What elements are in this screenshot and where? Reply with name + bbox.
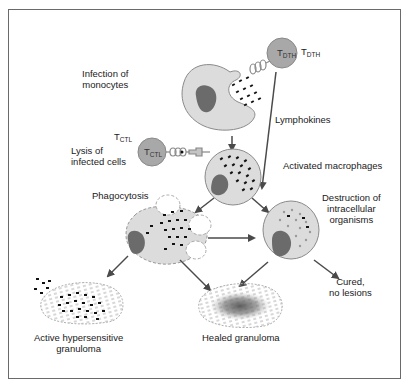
arrow-destruction-to-healed: [240, 262, 268, 286]
lymphokines-arrow: [262, 72, 276, 188]
label-phagocytosis: Phagocytosis: [92, 190, 149, 201]
arrow-to-activated: [252, 198, 268, 212]
tdth-inner-label: TDTH: [277, 47, 296, 59]
tctl-outer-label: TCTL: [114, 131, 132, 143]
label-line: Infection of: [82, 68, 128, 79]
label-activated-macrophages: Activated macrophages: [283, 160, 382, 171]
active-granuloma: [34, 278, 123, 324]
label-line: Lysis of: [71, 145, 126, 156]
label-destruction-of-intracellular-organisms: Destruction of intracellular organisms: [322, 192, 381, 225]
tctl-inner-label: TCTL: [144, 146, 162, 158]
label-line: organisms: [322, 214, 381, 225]
arrow-to-active-granuloma: [108, 256, 128, 276]
label-cured-no-lesions: Cured, no lesions: [329, 276, 372, 298]
label-line: monocytes: [82, 79, 128, 90]
label-line: infected cells: [71, 156, 126, 167]
infected-cell-lysis: [205, 149, 261, 205]
label-healed-granuloma: Healed granuloma: [202, 332, 280, 343]
healed-granuloma: [199, 284, 283, 328]
label-line: Cured,: [329, 276, 372, 287]
label-lymphokines: Lymphokines: [275, 114, 331, 125]
label-lysis-of-infected-cells: Lysis of infected cells: [71, 145, 126, 167]
activated-macrophage: [263, 201, 319, 259]
label-line: no lesions: [329, 287, 372, 298]
arrow-phago-to-healed: [180, 260, 210, 290]
label-infection-of-monocytes: Infection of monocytes: [82, 68, 128, 90]
arrow-to-phagocytosis: [196, 198, 214, 212]
tdth-outer-label: TDTH: [301, 46, 320, 58]
label-line: granuloma: [34, 343, 123, 354]
label-line: intracellular: [322, 203, 381, 214]
phagocytic-cell: [126, 195, 211, 264]
infected-monocyte: [182, 65, 261, 131]
label-line: Destruction of: [322, 192, 381, 203]
tdth-receptor-coils: [250, 60, 272, 74]
label-active-hypersensitive-granuloma: Active hypersensitive granuloma: [34, 332, 123, 354]
tctl-receptor-coils: [166, 148, 210, 156]
label-line: Active hypersensitive: [34, 332, 123, 343]
